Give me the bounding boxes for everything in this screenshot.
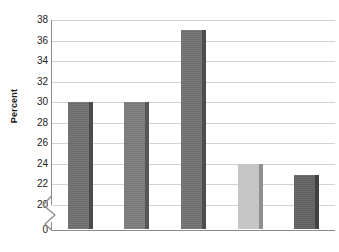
y-tick-label: 28 — [22, 118, 48, 128]
bar-side-shadow — [315, 177, 319, 229]
bar-side-shadow — [259, 166, 263, 230]
bar-face — [124, 102, 145, 229]
plot-area — [52, 20, 335, 230]
bar[interactable] — [124, 102, 145, 229]
y-tick-label: 38 — [22, 15, 48, 25]
bar-chart: Percent 020222426283032343638 — [0, 0, 339, 252]
bar-top-bevel — [315, 175, 319, 177]
gridline — [52, 20, 335, 21]
bar-face — [238, 164, 259, 230]
bar-face — [181, 30, 202, 229]
bar-top-bevel — [145, 102, 149, 104]
bar[interactable] — [68, 102, 89, 229]
y-tick-label: 30 — [22, 97, 48, 107]
bar[interactable] — [238, 164, 259, 230]
bar-top-bevel — [89, 102, 93, 104]
y-tick-label: 36 — [22, 36, 48, 46]
y-tick-label: 26 — [22, 138, 48, 148]
bar-top-bevel — [259, 164, 263, 166]
y-tick-label: 22 — [22, 179, 48, 189]
y-tick-label: 32 — [22, 77, 48, 87]
bar-side-shadow — [145, 104, 149, 229]
bar[interactable] — [181, 30, 202, 229]
bar[interactable] — [294, 175, 315, 229]
bar-side-shadow — [89, 104, 93, 229]
bar-face — [68, 102, 89, 229]
bar-top-bevel — [202, 30, 206, 32]
y-tick-label: 34 — [22, 56, 48, 66]
bar-side-shadow — [202, 32, 206, 229]
y-tick-label: 24 — [22, 159, 48, 169]
bar-face — [294, 175, 315, 229]
